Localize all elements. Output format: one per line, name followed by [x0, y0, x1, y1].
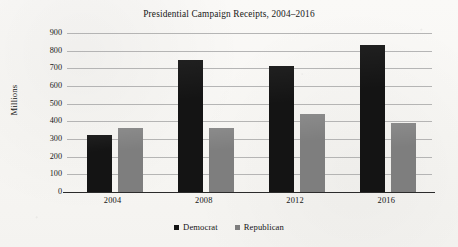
bar-group-2004: [87, 33, 143, 192]
y-tick-label: 400: [22, 117, 62, 125]
y-tick-label: 500: [22, 100, 62, 108]
bar-republican-2016: [391, 123, 416, 192]
legend-entry-democrat[interactable]: Democrat: [174, 222, 218, 232]
chart-title: Presidential Campaign Receipts, 2004–201…: [0, 9, 458, 19]
legend-swatch-icon: [174, 225, 179, 230]
bar-democrat-2004: [87, 135, 112, 192]
legend-entry-republican[interactable]: Republican: [235, 222, 284, 232]
bar-republican-2004: [118, 128, 143, 192]
bar-democrat-2016: [360, 45, 385, 192]
y-tick-label: 200: [22, 153, 62, 161]
bar-democrat-2008: [178, 60, 203, 192]
legend-label: Republican: [244, 222, 284, 232]
bar-group-2012: [269, 33, 325, 192]
y-tick-label: 900: [22, 29, 62, 37]
x-tick-label-2008: 2008: [176, 196, 232, 205]
y-tick-label: 700: [22, 64, 62, 72]
x-tick-label-2012: 2012: [267, 196, 323, 205]
bar-republican-2012: [300, 114, 325, 192]
y-tick-label: 300: [22, 135, 62, 143]
chart-figure: Presidential Campaign Receipts, 2004–201…: [0, 0, 458, 247]
y-tick-label: 800: [22, 47, 62, 55]
bar-democrat-2012: [269, 66, 294, 192]
y-tick-label: 600: [22, 82, 62, 90]
chart-legend: DemocratRepublican: [0, 222, 458, 232]
bar-republican-2008: [209, 128, 234, 192]
y-tick-label: 100: [22, 170, 62, 178]
x-tick-label-2004: 2004: [85, 196, 141, 205]
bar-group-2008: [178, 33, 234, 192]
bar-group-2016: [360, 33, 416, 192]
y-tick-label: 0: [22, 188, 62, 196]
x-axis-line: [63, 192, 435, 193]
x-tick-label-2016: 2016: [358, 196, 414, 205]
legend-swatch-icon: [235, 225, 240, 230]
bars-layer: [67, 33, 432, 192]
legend-label: Democrat: [183, 222, 218, 232]
x-axis-tick-labels: 2004200820122016: [67, 196, 432, 212]
